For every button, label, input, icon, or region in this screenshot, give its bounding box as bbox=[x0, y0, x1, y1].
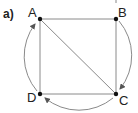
vertex-label-a: A bbox=[28, 6, 37, 19]
vertex-label-d: D bbox=[27, 91, 36, 104]
point-a bbox=[38, 17, 42, 21]
vertex-label-c: C bbox=[119, 94, 128, 107]
vertex-label-b: B bbox=[118, 6, 127, 19]
diagonal-ac bbox=[40, 19, 116, 94]
arc-c-to-d bbox=[45, 98, 113, 110]
arc-b-to-c bbox=[119, 21, 132, 89]
point-c bbox=[114, 92, 118, 96]
arc-d-to-a bbox=[24, 24, 37, 91]
point-d bbox=[38, 92, 42, 96]
square-diagram: a) A B C D bbox=[0, 0, 138, 113]
